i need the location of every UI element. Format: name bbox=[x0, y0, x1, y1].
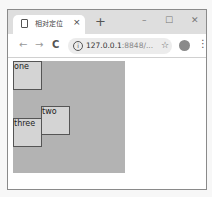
url-host: 127.0.0.1 bbox=[86, 41, 122, 50]
tab-close-icon[interactable]: × bbox=[73, 17, 81, 27]
tab-title: 相对定位 bbox=[35, 18, 63, 28]
maximize-button[interactable]: ☐ bbox=[165, 15, 173, 25]
address-bar[interactable]: i 127.0.0.1:8848/... ☆ bbox=[68, 38, 172, 54]
bookmark-star-icon[interactable]: ☆ bbox=[161, 40, 169, 50]
url-text: 127.0.0.1:8848/... bbox=[86, 41, 153, 50]
forward-button[interactable]: → bbox=[35, 39, 43, 50]
box-one: one bbox=[13, 61, 42, 90]
new-tab-button[interactable]: + bbox=[95, 15, 106, 29]
page-icon bbox=[21, 19, 28, 28]
info-icon[interactable]: i bbox=[73, 41, 83, 51]
menu-icon[interactable]: ⋮ bbox=[198, 38, 208, 49]
browser-window: 相对定位 × + – ☐ ✕ ← → C i 127.0.0.1:8848/..… bbox=[7, 9, 207, 190]
close-window-button[interactable]: ✕ bbox=[191, 15, 199, 25]
tab-active[interactable]: 相对定位 × bbox=[13, 15, 85, 34]
box-three: three bbox=[13, 118, 42, 147]
box-two: two bbox=[41, 106, 70, 135]
url-rest: :8848/... bbox=[122, 41, 153, 50]
reload-button[interactable]: C bbox=[52, 39, 59, 50]
profile-avatar[interactable] bbox=[179, 40, 190, 51]
toolbar: ← → C i 127.0.0.1:8848/... ☆ ⋮ bbox=[8, 34, 206, 58]
back-button[interactable]: ← bbox=[19, 39, 27, 50]
page-content: one two three bbox=[8, 58, 206, 189]
tab-strip: 相对定位 × + – ☐ ✕ bbox=[8, 10, 206, 34]
container-box: one two three bbox=[13, 61, 125, 173]
minimize-button[interactable]: – bbox=[142, 15, 147, 25]
